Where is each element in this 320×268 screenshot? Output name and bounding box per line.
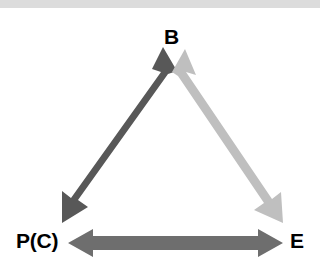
diagram-canvas: B P(C) E (0, 0, 320, 268)
node-label-pc: P(C) (16, 230, 58, 251)
arrow-b-e (172, 49, 283, 223)
node-label-e: E (290, 230, 304, 251)
arrow-b-pc (62, 47, 177, 223)
node-label-b: B (164, 26, 179, 47)
arrow-pc-e (68, 229, 283, 257)
triangle-diagram-graphic (0, 0, 320, 268)
